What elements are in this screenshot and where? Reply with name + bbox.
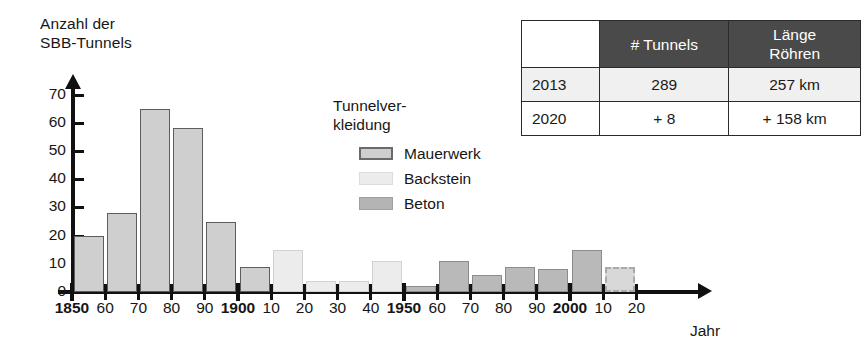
bar [306,281,336,292]
y-tick [75,94,84,97]
legend-swatch-icon [359,172,393,185]
stats-table-corner-cell [522,21,600,68]
x-tick-label: 20 [606,299,666,317]
table-cell-year: 2013 [522,68,600,102]
stats-table-head: # Tunnels Länge Röhren [522,21,861,68]
stats-table: # Tunnels Länge Röhren 2013289257 km2020… [521,20,861,136]
bar [538,269,568,292]
legend-item-label: Beton [404,195,445,213]
legend-item-backstein: Backstein [359,168,481,189]
chart-root: Anzahl derSBB-Tunnels 706050403020100 18… [0,0,861,353]
bar [472,275,502,292]
legend-item-beton: Beton [359,193,481,214]
y-tick-label-text: 10 [28,254,66,272]
bar [605,267,635,292]
bar [173,128,203,292]
bar [240,267,270,292]
stats-table-col-tunnels: # Tunnels [600,21,729,68]
bar [107,213,137,292]
legend-swatch-icon [359,197,393,210]
legend-item-label: Backstein [404,170,471,188]
legend-title-line1: Tunnelver- [333,97,407,114]
table-cell-year: 2020 [522,102,600,136]
x-axis-title: Jahr [690,322,720,340]
bar [339,281,369,292]
stats-table-col-laenge: Länge Röhren [729,21,861,68]
y-tick-label-text: 0 [28,282,66,300]
bar [505,267,535,292]
legend-item-mauerwerk: Mauerwerk [359,143,481,164]
bar [273,250,303,292]
bar [572,250,602,292]
y-tick-label-text: 30 [28,197,66,215]
y-tick [75,150,84,153]
table-cell-laenge: + 158 km [729,102,861,136]
bar [74,236,104,292]
legend-title: Tunnelver-kleidung [333,96,481,134]
table-cell-tunnels: 289 [600,68,729,102]
legend-item-label: Mauerwerk [404,145,481,163]
stats-table-body: 2013289257 km2020+ 8+ 158 km [522,68,861,136]
table-row: 2013289257 km [522,68,861,102]
y-tick-label-text: 40 [28,169,66,187]
legend-swatch-icon [359,147,393,160]
table-cell-laenge: 257 km [729,68,861,102]
legend-items: MauerwerkBacksteinBeton [359,143,481,214]
x-tick [635,284,638,300]
x-axis-arrow-icon [698,283,712,299]
legend: Tunnelver-kleidung MauerwerkBacksteinBet… [333,96,481,218]
stats-table-header-row: # Tunnels Länge Röhren [522,21,861,68]
bar [140,109,170,292]
y-tick-label-text: 50 [28,141,66,159]
bar [439,261,469,292]
table-row: 2020+ 8+ 158 km [522,102,861,136]
bar [406,286,436,292]
bar [372,261,402,292]
y-tick-label-text: 70 [28,85,66,103]
y-tick-label-text: 60 [28,113,66,131]
y-tick-label-text: 20 [28,226,66,244]
y-tick [75,122,84,125]
legend-title-line2: kleidung [333,116,391,133]
bar [206,222,236,293]
y-tick [75,206,84,209]
y-tick [75,178,84,181]
table-cell-tunnels: + 8 [600,102,729,136]
